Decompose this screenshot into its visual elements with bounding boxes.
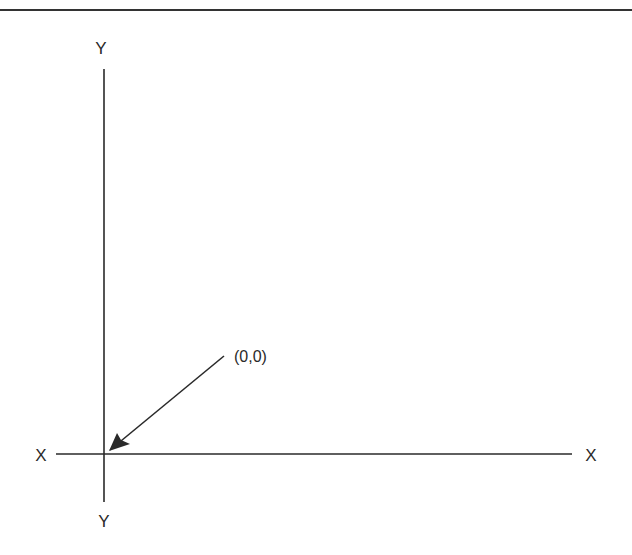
coordinate-axes-diagram: Y Y X X (0,0) bbox=[0, 0, 632, 555]
origin-label: (0,0) bbox=[234, 348, 267, 365]
x-axis-right-label: X bbox=[585, 446, 596, 465]
x-axis-left-label: X bbox=[35, 446, 46, 465]
origin-pointer-arrow bbox=[110, 356, 224, 450]
y-axis-bottom-label: Y bbox=[98, 512, 109, 531]
y-axis-top-label: Y bbox=[95, 39, 106, 58]
